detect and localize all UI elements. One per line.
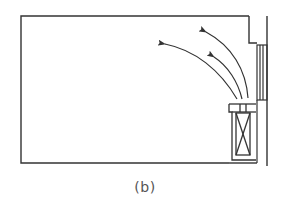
window-frame bbox=[257, 45, 267, 163]
airflow-arrow-1 bbox=[165, 44, 237, 99]
airflow-arrows bbox=[165, 32, 248, 99]
room-outline bbox=[21, 16, 257, 163]
air-conditioning-unit bbox=[229, 104, 256, 160]
figure-caption: (b) bbox=[0, 179, 290, 195]
airflow-arrow-2 bbox=[206, 32, 248, 98]
